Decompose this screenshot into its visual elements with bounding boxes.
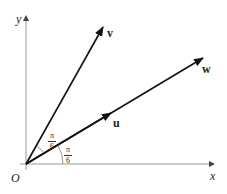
vector-w-label: w [202,63,211,75]
y-axis-label: y [16,13,21,25]
angle-arc-x-u [58,146,63,165]
vector-v-label: v [107,27,113,39]
vector-diagram-canvas [0,0,227,194]
angle-label-u-v-numerator: π [48,132,56,142]
origin-label: O [11,172,20,184]
x-axis-label: x [210,170,215,182]
angle-label-x-u-denominator: 6 [64,156,72,165]
angle-label-u-v: π 6 [48,132,56,151]
angle-label-u-v-denominator: 6 [48,142,56,151]
vector-v [26,27,103,164]
angle-arc-u-v [37,146,43,153]
angle-label-x-u: π 6 [64,146,72,165]
vector-u-label: u [113,117,120,129]
angle-label-x-u-numerator: π [64,146,72,156]
